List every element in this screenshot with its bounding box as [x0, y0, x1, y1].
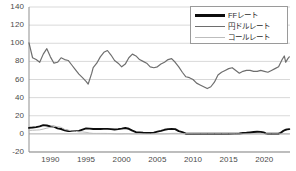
y-axis-tick-label: -20: [0, 147, 24, 156]
x-axis-tick-label: 2015: [209, 155, 249, 164]
y-axis-tick-label: 80: [0, 56, 24, 65]
legend-label-ff-rate: FFレート: [225, 10, 258, 21]
legend-item-yen-dollar-rate: 円ドルレート: [195, 21, 283, 32]
x-axis-tick-label: 1990: [30, 155, 70, 164]
x-axis-tick-label: 2020: [244, 155, 284, 164]
x-axis-tick-label: 2005: [137, 155, 177, 164]
legend-line-swatch-yen-dollar-rate: [195, 23, 225, 31]
series-line-yen-dollar-rate: [29, 43, 289, 89]
legend-line-swatch-call-rate: [195, 34, 225, 42]
chart-container: 140120100806040200-20 199019952000200520…: [0, 0, 296, 171]
y-axis-tick-label: 60: [0, 75, 24, 84]
legend-label-yen-dollar-rate: 円ドルレート: [225, 21, 270, 32]
data-series-group: [29, 43, 289, 134]
legend-line-swatch-ff-rate: [195, 12, 225, 20]
y-axis-tick-label: 100: [0, 38, 24, 47]
y-axis-tick-label: 0: [0, 129, 24, 138]
chart-legend: FFレート 円ドルレート コールレート: [190, 6, 288, 44]
y-axis-tick-label: 20: [0, 111, 24, 120]
y-axis-tick-label: 140: [0, 2, 24, 11]
legend-item-ff-rate: FFレート: [195, 10, 283, 21]
legend-item-call-rate: コールレート: [195, 32, 283, 43]
x-axis-tick-label: 1995: [66, 155, 106, 164]
x-axis-tick-label: 2010: [173, 155, 213, 164]
y-axis-tick-label: 40: [0, 93, 24, 102]
legend-label-call-rate: コールレート: [225, 32, 270, 43]
series-line-ff-rate: [29, 125, 289, 134]
y-axis-tick-label: 120: [0, 20, 24, 29]
x-axis-tick-label: 2000: [102, 155, 142, 164]
